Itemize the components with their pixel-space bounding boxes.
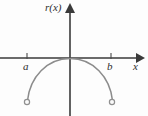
graph-figure: r(x) x a b — [0, 0, 148, 116]
y-axis-arrowhead — [65, 3, 75, 13]
open-endpoint-left — [24, 99, 29, 104]
tick-label-b: b — [107, 61, 113, 72]
open-endpoint-right — [109, 99, 114, 104]
x-axis-label: x — [133, 61, 138, 72]
tick-label-a: a — [23, 61, 29, 72]
y-axis-label: r(x) — [45, 2, 62, 13]
coordinate-plot — [0, 0, 148, 116]
